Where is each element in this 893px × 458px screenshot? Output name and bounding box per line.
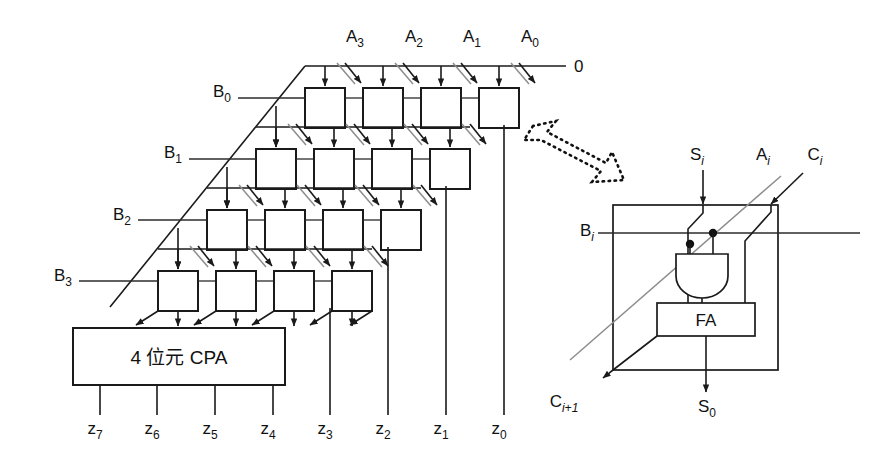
array-cell	[381, 210, 421, 250]
array-cell	[207, 210, 247, 250]
array-cell	[430, 149, 470, 189]
array-cell	[274, 271, 314, 311]
array-cell	[479, 88, 519, 128]
array-multiplier-diagram: 4 位元 CPA A3A2A1A0 B0B1B2B3 z7z6z5z4z3z2z…	[0, 0, 893, 458]
array-cell	[372, 149, 412, 189]
array-cell	[256, 149, 296, 189]
array-cell	[363, 88, 403, 128]
array-cell	[421, 88, 461, 128]
array-cell	[305, 88, 345, 128]
array-cell	[332, 271, 372, 311]
cpa-block: 4 位元 CPA	[73, 328, 285, 385]
array-cell	[314, 149, 354, 189]
array-cell	[323, 210, 363, 250]
and-gate	[676, 254, 728, 298]
cpa-label: 4 位元 CPA	[131, 347, 228, 368]
array-cell	[265, 210, 305, 250]
array-cell	[158, 271, 198, 311]
array-cell	[216, 271, 256, 311]
carry-in-zero-label: 0	[574, 57, 583, 76]
fa-label: FA	[696, 311, 717, 330]
